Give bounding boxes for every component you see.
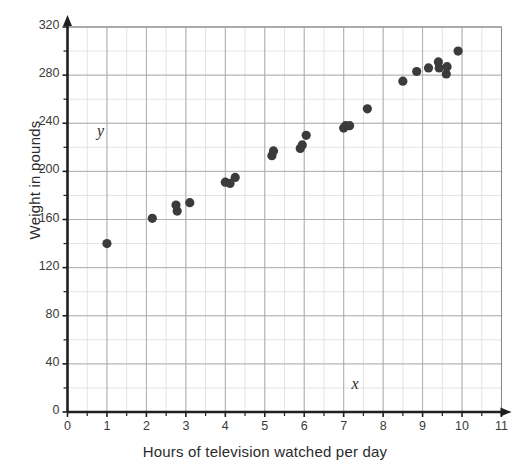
x-tick-label-9: 9 [412,419,434,433]
x-tick-label-6: 6 [293,419,315,433]
y-tick-label-40: 40 [26,355,60,369]
x-tick-label-5: 5 [254,419,276,433]
data-point-21 [435,63,444,72]
y-tick-label-80: 80 [26,307,60,321]
x-tick-label-8: 8 [372,419,394,433]
y-tick-label-280: 280 [26,66,60,80]
data-point-3 [173,206,182,215]
y-tick-label-0: 0 [26,403,60,417]
y-tick-label-200: 200 [26,162,60,176]
data-point-24 [454,46,463,55]
x-tick-label-4: 4 [214,419,236,433]
data-point-7 [231,173,240,182]
plot-canvas [0,0,530,471]
x-tick-label-2: 2 [135,419,157,433]
x-tick-label-3: 3 [175,419,197,433]
data-point-17 [398,77,407,86]
data-point-9 [269,146,278,155]
data-point-0 [102,239,111,248]
y-tick-label-240: 240 [26,114,60,128]
data-point-4 [185,198,194,207]
x-tick-label-11: 11 [491,419,513,433]
data-point-16 [363,104,372,113]
data-point-23 [442,62,451,71]
data-point-19 [424,63,433,72]
x-tick-label-0: 0 [57,419,79,433]
data-point-1 [148,214,157,223]
x-tick-label-10: 10 [451,419,473,433]
axis-variable-annotation-x: x [352,375,359,393]
scatter-plot-figure: Weight in pounds Hours of television wat… [0,0,530,471]
x-tick-label-1: 1 [96,419,118,433]
axis-variable-annotation-y: y [97,122,104,140]
y-tick-label-120: 120 [26,259,60,273]
data-point-11 [298,140,307,149]
tick-marks [63,27,502,417]
x-axis-title: Hours of television watched per day [100,443,430,460]
x-tick-label-7: 7 [333,419,355,433]
data-point-15 [345,121,354,130]
data-point-18 [412,67,421,76]
data-point-12 [302,131,311,140]
y-tick-label-320: 320 [26,18,60,32]
y-tick-label-160: 160 [26,211,60,225]
